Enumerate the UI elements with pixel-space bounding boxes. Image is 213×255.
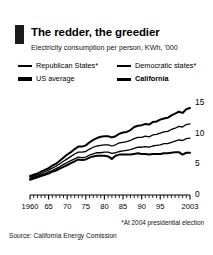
x-tick-label: 2003 bbox=[182, 202, 199, 211]
series-line-us-average bbox=[30, 108, 190, 176]
chart-footnote: *At 2004 presidential election bbox=[121, 219, 204, 227]
legend-swatch-icon bbox=[117, 65, 131, 67]
legend-item-democratic-states[interactable]: Democratic states* bbox=[117, 62, 196, 70]
chart-source: Source: California Energy Comission bbox=[9, 232, 117, 240]
series-layer bbox=[30, 108, 190, 195]
legend-swatch-icon bbox=[18, 65, 32, 67]
chart-legend: Republican States* Democratic states* US… bbox=[18, 62, 204, 90]
legend-swatch-icon bbox=[18, 77, 32, 81]
x-tick-label: 85 bbox=[119, 202, 127, 211]
y-tick-label: 5 bbox=[195, 159, 200, 168]
chart-title: The redder, the greedier bbox=[31, 26, 160, 39]
x-axis-labels: 1960657075808590952003 bbox=[0, 202, 213, 216]
x-tick-label: 70 bbox=[63, 202, 71, 211]
x-tick-label: 75 bbox=[82, 202, 90, 211]
series-line-california bbox=[30, 152, 190, 180]
x-tick-label: 90 bbox=[137, 202, 145, 211]
x-tick-label: 80 bbox=[100, 202, 108, 211]
chart-card: The redder, the greedier Electricity con… bbox=[0, 0, 213, 255]
legend-label: US average bbox=[36, 75, 75, 83]
plot-area: 051015 bbox=[0, 92, 213, 200]
legend-swatch-icon bbox=[117, 78, 131, 81]
x-tick-label: 65 bbox=[44, 202, 52, 211]
chart-subtitle: Electricity consumption per person, KWh,… bbox=[31, 43, 178, 52]
y-tick-label: 15 bbox=[195, 98, 204, 107]
brand-bar-icon bbox=[15, 25, 24, 44]
legend-item-us-average[interactable]: US average bbox=[18, 75, 75, 83]
line-chart-svg bbox=[0, 92, 213, 200]
legend-label: Republican States* bbox=[36, 62, 98, 70]
x-tick-label: 95 bbox=[156, 202, 164, 211]
legend-label: Democratic states* bbox=[135, 62, 196, 70]
legend-item-california[interactable]: California bbox=[117, 75, 169, 83]
y-tick-label: 10 bbox=[195, 129, 204, 138]
x-tick-label: 1960 bbox=[22, 202, 39, 211]
legend-item-republican-states[interactable]: Republican States* bbox=[18, 62, 98, 70]
legend-label: California bbox=[135, 75, 169, 83]
